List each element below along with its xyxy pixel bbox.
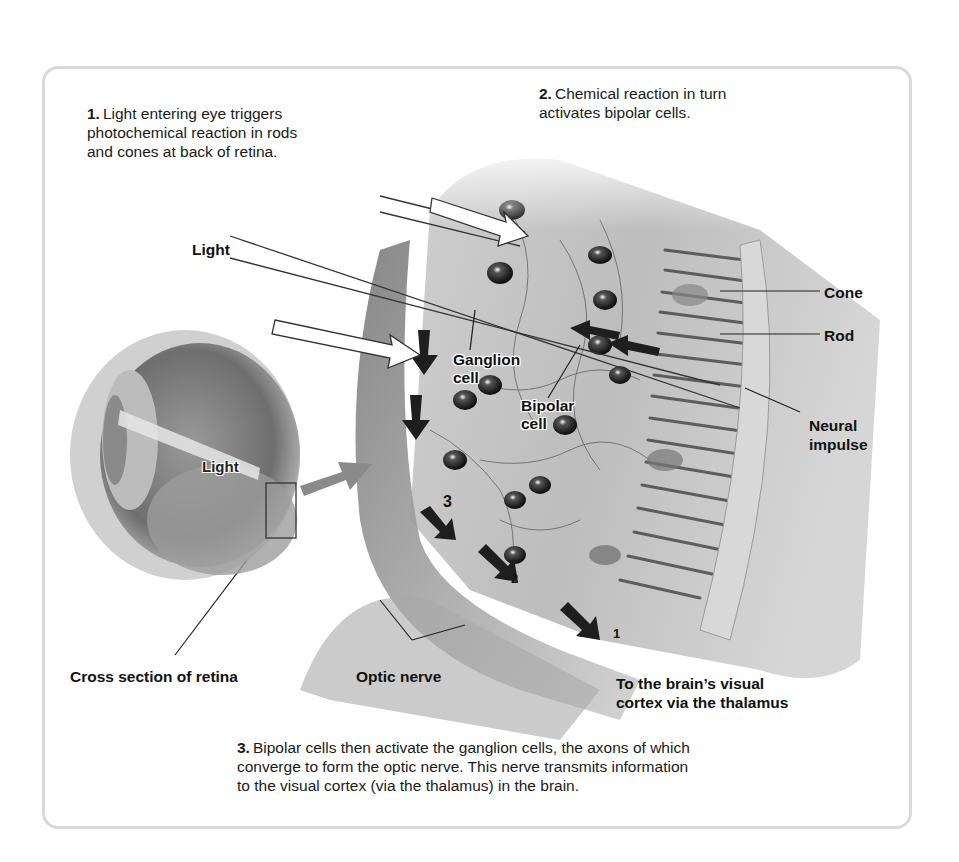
layer-marker-2: 2 — [511, 571, 518, 586]
label-to-brain: To the brain’s visual cortex via the tha… — [616, 674, 788, 712]
layer-marker-1: 1 — [613, 626, 620, 641]
label-bipolar-cell: Bipolar cell — [521, 397, 574, 433]
label-light: Light — [192, 240, 230, 259]
label-cross-section: Cross section of retina — [70, 667, 238, 686]
layer-marker-3: 3 — [443, 493, 452, 511]
step-2-number: 2. — [539, 85, 552, 102]
step-2-text: 2.Chemical reaction in turn activates bi… — [539, 84, 726, 122]
step-3-text: 3.Bipolar cells then activate the gangli… — [237, 738, 690, 795]
label-light-eye: Light — [202, 458, 239, 475]
step-1-text: 1.Light entering eye triggers photochemi… — [87, 104, 297, 161]
step-1-number: 1. — [87, 105, 100, 122]
label-neural-impulse: Neural impulse — [809, 416, 868, 454]
eyeball — [70, 330, 300, 580]
label-optic-nerve: Optic nerve — [356, 667, 441, 686]
label-rod: Rod — [824, 326, 854, 345]
step-3-number: 3. — [237, 739, 250, 756]
retina-tissue — [300, 140, 880, 740]
label-ganglion-cell: Ganglion cell — [453, 351, 520, 387]
label-cone: Cone — [824, 283, 863, 302]
